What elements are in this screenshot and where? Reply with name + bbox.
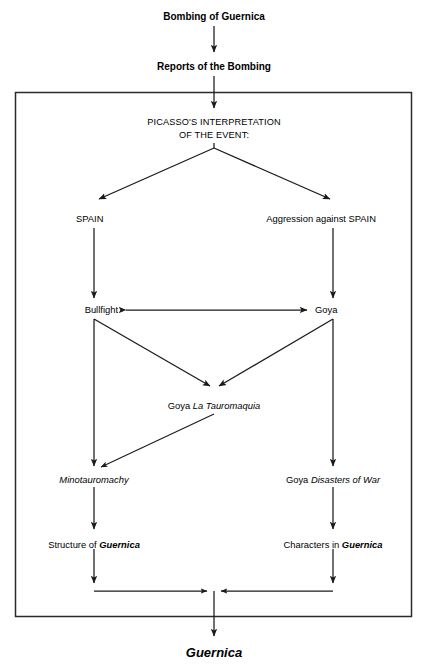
node-goya-disasters-title: Disasters of War (311, 474, 381, 485)
node-final-guernica: Guernica (186, 645, 242, 660)
node-minotauromachy: Minotauromachy (59, 474, 130, 485)
node-aggression-against-spain: Aggression against SPAIN (266, 213, 376, 224)
edge-bullfight-to-tauromaquia (94, 319, 210, 386)
node-goya: Goya (315, 304, 338, 315)
node-reports-of-the-bombing: Reports of the Bombing (157, 61, 271, 72)
node-picassos-interpretation-line1: PICASSO'S INTERPRETATION (147, 117, 281, 127)
node-picassos-interpretation-line2: OF THE EVENT: (179, 130, 249, 140)
node-bullfight: Bullfight (85, 304, 119, 315)
node-goya-la-tauromaquia-prefix: Goya (168, 400, 193, 411)
edge-tauromaquia-to-minotauromachy (101, 414, 214, 467)
node-spain: SPAIN (76, 213, 103, 224)
node-goya-disasters-prefix: Goya (286, 474, 311, 485)
node-structure-prefix: Structure of (48, 539, 99, 550)
edge-goya-to-tauromaquia (219, 319, 333, 386)
flowchart-canvas: Bombing of Guernica Reports of the Bombi… (0, 0, 426, 664)
node-bombing-of-guernica: Bombing of Guernica (163, 11, 265, 22)
node-characters-in-guernica: Characters in Guernica (284, 539, 383, 550)
node-goya-la-tauromaquia: Goya La Tauromaquia (168, 400, 260, 411)
node-characters-work-title: Guernica (342, 539, 383, 550)
node-characters-prefix: Characters in (284, 539, 342, 550)
node-goya-la-tauromaquia-title: La Tauromaquia (193, 400, 260, 411)
node-structure-work-title: Guernica (99, 539, 140, 550)
edge-interpretation-to-spain (99, 148, 214, 199)
interpretation-frame (16, 93, 412, 617)
diagram-root: Bombing of Guernica Reports of the Bombi… (0, 0, 426, 664)
edge-interpretation-to-aggression (214, 148, 330, 199)
node-structure-of-guernica: Structure of Guernica (48, 539, 140, 550)
node-goya-disasters-of-war: Goya Disasters of War (286, 474, 381, 485)
